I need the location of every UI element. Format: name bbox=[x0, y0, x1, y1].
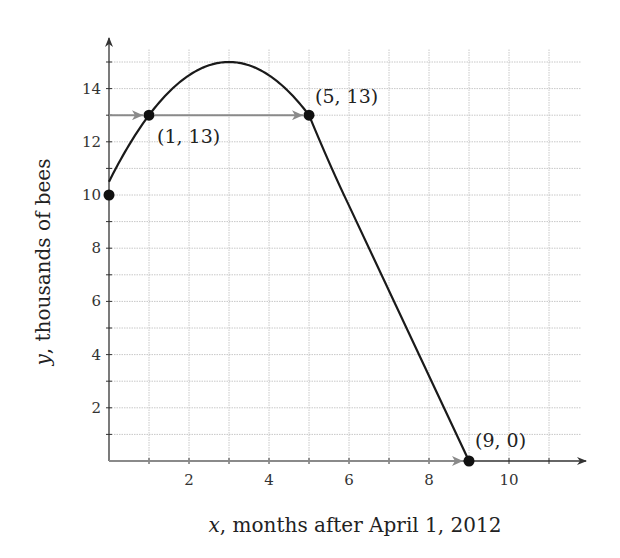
annotation-arrows bbox=[109, 115, 463, 461]
y-tick-label: 12 bbox=[82, 133, 101, 151]
data-point bbox=[464, 456, 475, 467]
y-tick-label: 14 bbox=[82, 80, 101, 98]
x-tick-label: 6 bbox=[344, 471, 354, 489]
point-label: (5, 13) bbox=[315, 85, 378, 107]
marked-points bbox=[104, 110, 475, 467]
chart: 2468102468101214 (1, 13)(5, 13)(9, 0) x,… bbox=[0, 0, 620, 558]
y-tick-label: 4 bbox=[91, 346, 101, 364]
y-axis-title: y, thousands of bees bbox=[31, 159, 55, 367]
y-tick-label: 10 bbox=[82, 186, 101, 204]
data-point bbox=[304, 110, 315, 121]
x-tick-label: 2 bbox=[184, 471, 194, 489]
grid-lines bbox=[109, 49, 581, 461]
y-tick-label: 8 bbox=[91, 239, 101, 257]
data-point bbox=[144, 110, 155, 121]
x-axis-title: x, months after April 1, 2012 bbox=[209, 513, 502, 537]
x-tick-label: 4 bbox=[264, 471, 274, 489]
y-tick-label: 6 bbox=[91, 292, 101, 310]
y-tick-label: 2 bbox=[91, 399, 101, 417]
x-tick-label: 8 bbox=[424, 471, 434, 489]
point-labels: (1, 13)(5, 13)(9, 0) bbox=[157, 85, 526, 451]
point-label: (9, 0) bbox=[475, 429, 526, 451]
point-label: (1, 13) bbox=[157, 125, 220, 147]
bee-population-curve bbox=[109, 62, 469, 461]
x-tick-label: 10 bbox=[499, 471, 518, 489]
data-point bbox=[104, 190, 115, 201]
